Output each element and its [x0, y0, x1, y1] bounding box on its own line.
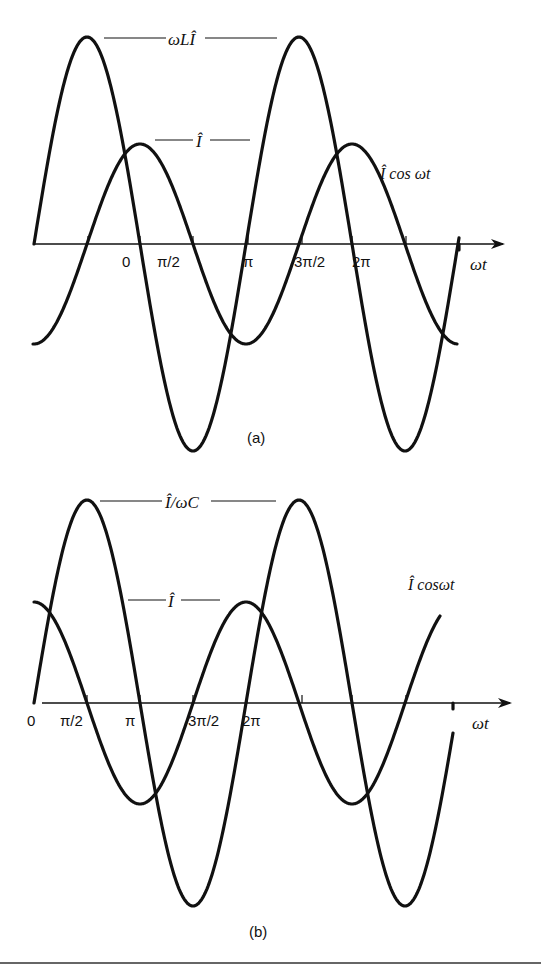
diagram-a-inductor: ωLÎ Î Î cos ωt 0 π/2 π 3π/2 2π ωt (a) [33, 30, 503, 451]
tick-label-3pi-half: 3π/2 [294, 253, 325, 270]
tick-label-pi-half: π/2 [157, 253, 180, 270]
tick-label-pi: π [243, 253, 253, 270]
caption-a: (a) [247, 429, 265, 446]
current-curve-label: Î cos ωt [379, 164, 431, 182]
tick-label-0: 0 [27, 712, 35, 729]
tick-label-3pi-half: 3π/2 [188, 712, 219, 729]
tick-label-2pi: 2π [242, 712, 261, 729]
axis-label-omega-t: ωt [470, 255, 488, 274]
tick-label-2pi: 2π [352, 253, 371, 270]
phasor-waveform-figure: ωLÎ Î Î cos ωt 0 π/2 π 3π/2 2π ωt (a) Î/… [0, 0, 541, 965]
caption-b: (b) [249, 923, 267, 940]
current-amplitude-label: Î [195, 132, 203, 151]
tick-label-pi: π [125, 712, 135, 729]
voltage-amplitude-label: Î/ωC [164, 493, 199, 512]
tick-label-pi-half: π/2 [60, 712, 83, 729]
current-curve-label: Î cosωt [407, 575, 455, 593]
current-amplitude-label: Î [167, 592, 175, 611]
diagram-b-capacitor: Î/ωC Î Î cosωt 0 π/2 π 3π/2 2π ωt (b) [27, 493, 510, 940]
tick-label-0: 0 [122, 253, 130, 270]
axis-label-omega-t: ωt [472, 714, 490, 733]
voltage-amplitude-label: ωLÎ [168, 30, 196, 49]
